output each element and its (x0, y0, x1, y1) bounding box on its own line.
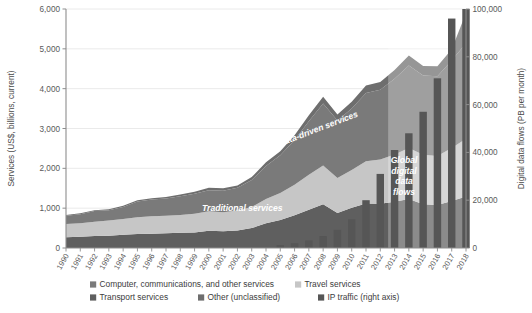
annotation-global-digital-data-flows-line: flows (393, 187, 415, 197)
ip-traffic-bar (362, 200, 369, 248)
ip-traffic-bar (377, 174, 384, 248)
legend-label: Other (unclassified) (208, 292, 281, 302)
right-axis-tick-label: 40,000 (473, 148, 498, 157)
x-axis-tick-label: 2001 (212, 252, 228, 271)
left-axis-tick-label: 2,000 (40, 164, 61, 173)
x-axis-tick-label: 2012 (369, 252, 385, 271)
x-axis-tick-label: 2014 (398, 252, 414, 271)
chart-container: 01,0002,0003,0004,0005,0006,000020,00040… (0, 0, 532, 313)
legend-swatch (90, 294, 96, 300)
left-axis-tick-label: 4,000 (40, 85, 61, 94)
annotation-global-digital-data-flows-line: data (395, 176, 413, 186)
x-axis-tick-label: 1998 (169, 252, 185, 271)
x-axis-tick-label: 2013 (383, 252, 399, 271)
annotation-global-digital-data-flows-line: digital (391, 166, 417, 176)
ip-traffic-bar (348, 219, 355, 248)
left-axis-tick-label: 0 (55, 244, 60, 253)
x-axis-tick-label: 1995 (126, 252, 142, 271)
legend-label: IP traffic (right axis) (328, 292, 400, 302)
x-axis-tick-label: 1994 (112, 252, 128, 271)
left-axis-tick-label: 3,000 (40, 125, 61, 134)
left-axis-tick-label: 1,000 (40, 204, 61, 213)
x-axis-tick-label: 2018 (455, 252, 471, 271)
x-axis-tick-label: 2003 (240, 252, 256, 271)
left-axis-tick-label: 6,000 (40, 5, 61, 14)
left-axis-tick-label: 5,000 (40, 45, 61, 54)
annotation-traditional-services: Traditional services (202, 203, 283, 213)
x-axis-tick-label: 1997 (155, 252, 171, 271)
x-axis-tick-label: 2004 (255, 252, 271, 271)
x-axis-tick-label: 1993 (98, 252, 114, 271)
legend-swatch (295, 281, 301, 287)
legend-item[interactable]: Computer, communications, and other serv… (90, 279, 274, 289)
right-axis-tick-label: 60,000 (473, 101, 498, 110)
x-axis-tick-label: 2011 (355, 252, 371, 271)
x-axis-tick-label: 1990 (55, 252, 71, 271)
x-axis-tick-label: 1992 (83, 252, 99, 271)
x-axis-tick-label: 2016 (426, 252, 442, 271)
x-axis-tick-label: 1999 (183, 252, 199, 271)
ip-traffic-bar (419, 112, 426, 248)
legend-label: Computer, communications, and other serv… (100, 279, 275, 289)
x-axis-tick-label: 2006 (283, 252, 299, 271)
right-axis-tick-label: 80,000 (473, 53, 498, 62)
ip-traffic-bar (319, 236, 326, 248)
x-axis-tick-label: 1991 (69, 252, 85, 271)
x-axis-tick-label: 2002 (226, 252, 242, 271)
x-axis-tick-label: 2008 (312, 252, 328, 271)
ip-traffic-bar (448, 19, 455, 248)
ip-traffic-bar (434, 78, 441, 248)
legend-item[interactable]: Transport services (90, 292, 168, 302)
left-axis-title: Services (US$, billions, current) (6, 70, 16, 186)
x-axis-tick-label: 2007 (298, 252, 314, 271)
x-axis-tick-label: 2005 (269, 252, 285, 271)
right-axis-tick-label: 100,000 (473, 5, 503, 14)
x-axis-tick-label: 2000 (198, 252, 214, 271)
x-axis-tick-label: 1996 (140, 252, 156, 271)
legend-label: Transport services (100, 292, 169, 302)
x-axis-tick-label: 2015 (412, 252, 428, 271)
legend-label: Travel services (305, 279, 361, 289)
annotation-global-digital-data-flows-line: Global (391, 155, 418, 165)
legend-swatch (90, 281, 96, 287)
stacked-area-chart: 01,0002,0003,0004,0005,0006,000020,00040… (0, 0, 532, 313)
x-axis-tick-label: 2017 (440, 252, 456, 271)
legend-swatch (198, 294, 204, 300)
right-axis-tick-label: 20,000 (473, 196, 498, 205)
legend-item[interactable]: IP traffic (right axis) (318, 292, 400, 302)
ip-traffic-bar (305, 240, 312, 248)
legend-item[interactable]: Other (unclassified) (198, 292, 280, 302)
ip-traffic-bar (291, 243, 298, 248)
right-axis-tick-label: 0 (473, 244, 478, 253)
legend-swatch (318, 294, 324, 300)
x-axis-tick-label: 2009 (326, 252, 342, 271)
x-axis-tick-label: 2010 (340, 252, 356, 271)
ip-traffic-bar (334, 230, 341, 248)
data-flows-highlight-box (388, 9, 474, 248)
legend-item[interactable]: Travel services (295, 279, 361, 289)
right-axis-title: Digital data flows (PB per month) (516, 68, 526, 190)
